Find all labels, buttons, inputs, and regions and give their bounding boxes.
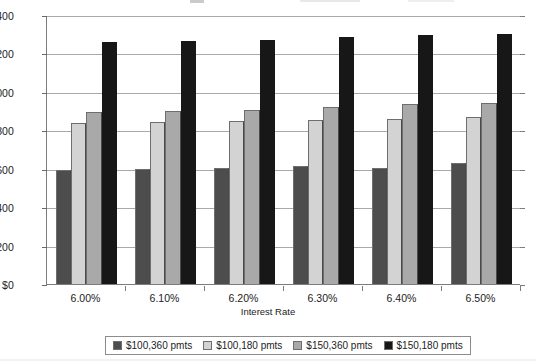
bar (372, 168, 387, 284)
clipped-title-artifact (190, 0, 204, 3)
bar (56, 170, 71, 284)
bar (451, 163, 466, 284)
y-axis-tick-right (520, 93, 525, 94)
bar (71, 123, 86, 284)
bar (402, 104, 417, 284)
legend-item[interactable]: $150,180 pmts (384, 340, 463, 351)
y-axis-tick-label: $1,000 (0, 88, 14, 98)
x-axis-tick-label: 6.10% (125, 292, 204, 304)
legend-item[interactable]: $150,360 pmts (293, 340, 372, 351)
x-axis-tick-label: 6.30% (283, 292, 362, 304)
bar (387, 119, 402, 284)
x-axis-tick (441, 286, 442, 291)
bar (481, 103, 496, 284)
bar (135, 169, 150, 284)
bar (497, 34, 512, 284)
legend-label: $100,360 pmts (126, 340, 192, 351)
clipped-title-artifact-2 (300, 0, 360, 2)
y-axis-tick-label: $0 (2, 280, 14, 290)
x-axis-tick (283, 286, 284, 291)
chart-legend: $100,360 pmts$100,180 pmts$150,360 pmts$… (105, 336, 471, 355)
x-axis-tick (520, 286, 521, 291)
x-axis-title: Interest Rate (0, 306, 536, 317)
bar (165, 111, 180, 285)
x-axis-tick (204, 286, 205, 291)
y-axis-tick-label: $800 (0, 126, 14, 136)
bar (260, 40, 275, 284)
legend-label: $100,180 pmts (216, 340, 282, 351)
legend-swatch-icon (203, 341, 212, 350)
bar-group (293, 16, 354, 284)
y-axis-tick-label: $200 (0, 242, 14, 252)
bar (244, 110, 259, 284)
x-axis-tick (125, 286, 126, 291)
x-axis-tick (362, 286, 363, 291)
plot-area (46, 16, 520, 285)
y-axis-tick (42, 285, 47, 286)
legend-swatch-icon (113, 341, 122, 350)
y-axis-tick-label: $400 (0, 203, 14, 213)
y-axis-tick-right (520, 54, 525, 55)
bar (466, 117, 481, 284)
bar-group (451, 16, 512, 284)
y-axis-tick-right (520, 170, 525, 171)
y-axis-tick-label: $600 (0, 165, 14, 175)
bar (293, 166, 308, 284)
y-axis-tick-right (520, 16, 525, 17)
x-axis-tick-label: 6.20% (204, 292, 283, 304)
legend-label: $150,180 pmts (397, 340, 463, 351)
bar (418, 35, 433, 284)
bar (323, 107, 338, 284)
clipped-title-artifact-3 (408, 0, 454, 2)
bar-group (372, 16, 433, 284)
bar (339, 37, 354, 284)
bar-groups (47, 16, 520, 284)
x-axis-tick-label: 6.40% (362, 292, 441, 304)
bar (181, 41, 196, 284)
bar (150, 122, 165, 284)
legend-label: $150,360 pmts (306, 340, 372, 351)
legend-swatch-icon (293, 341, 302, 350)
y-axis-tick-label: $1,400 (0, 11, 14, 21)
bar-chart: $0$200$400$600$800$1,000$1,200$1,400 6.0… (0, 0, 536, 361)
y-axis-tick-right (520, 131, 525, 132)
bar-group (56, 16, 117, 284)
legend-item[interactable]: $100,360 pmts (113, 340, 192, 351)
y-axis-tick-right (520, 247, 525, 248)
y-axis-tick-right (520, 208, 525, 209)
bar (214, 168, 229, 284)
bar-group (135, 16, 196, 284)
bar (86, 112, 101, 284)
y-axis-tick-label: $1,200 (0, 49, 14, 59)
bar (102, 42, 117, 284)
bar (308, 120, 323, 284)
legend-item[interactable]: $100,180 pmts (203, 340, 282, 351)
bar-group (214, 16, 275, 284)
bar (229, 121, 244, 284)
legend-swatch-icon (384, 341, 393, 350)
x-axis-tick-label: 6.00% (46, 292, 125, 304)
x-axis-tick-label: 6.50% (441, 292, 520, 304)
